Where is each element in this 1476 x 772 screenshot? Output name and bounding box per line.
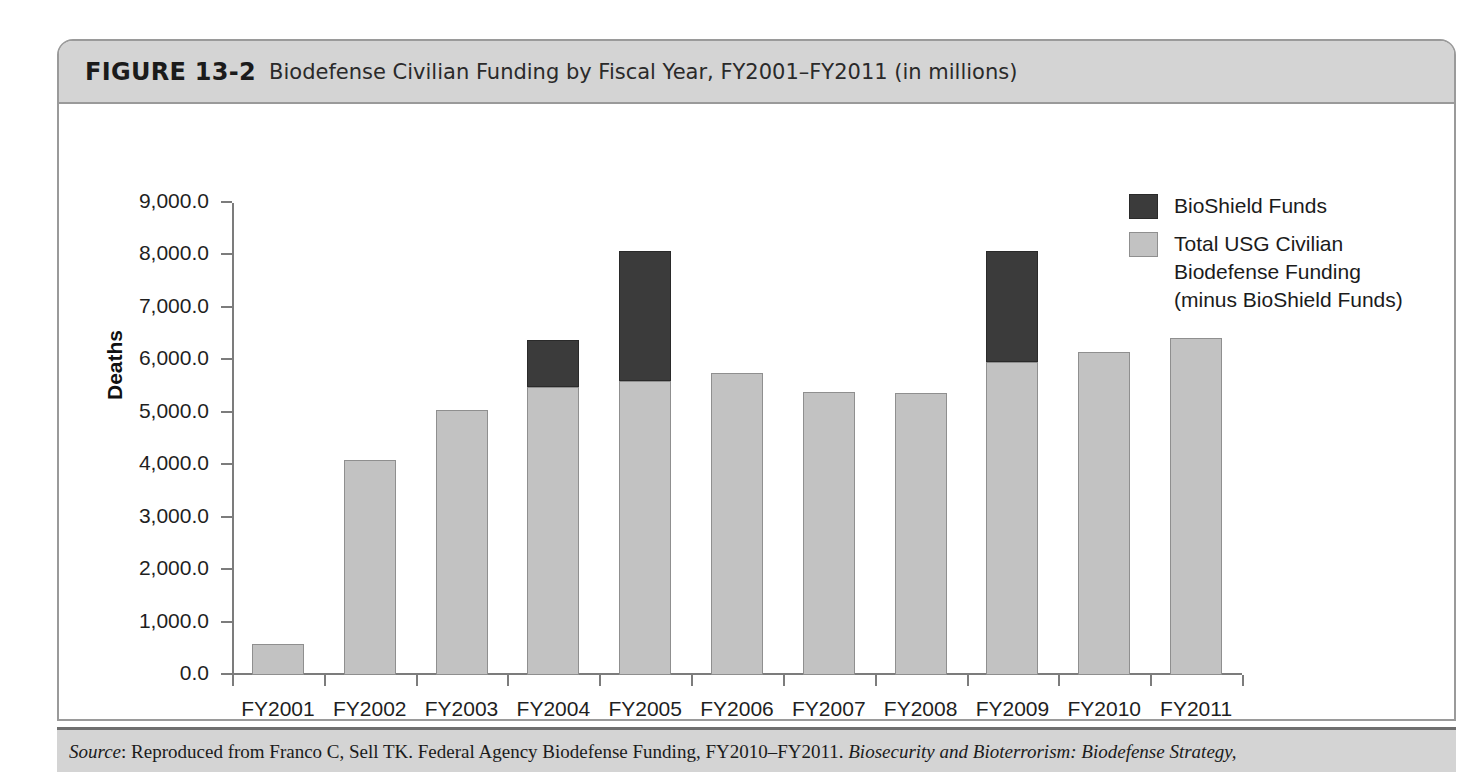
chart-area: Deaths 0.01,000.02,000.03,000.04,000.05,… bbox=[59, 104, 1454, 721]
x-axis-tick bbox=[1058, 675, 1060, 686]
bar-FY2008[interactable]: FY2008 bbox=[895, 393, 947, 675]
y-axis-tick-label: 1,000.0 bbox=[139, 609, 209, 633]
y-axis-tick-label: 4,000.0 bbox=[139, 451, 209, 475]
y-axis-tick: 8,000.0 bbox=[221, 253, 232, 255]
bar-segment-bioshield bbox=[619, 251, 671, 381]
x-axis-tick bbox=[416, 675, 418, 686]
bar-FY2010[interactable]: FY2010 bbox=[1078, 352, 1130, 675]
x-axis-tick bbox=[599, 675, 601, 686]
y-axis-tick-label: 0.0 bbox=[180, 661, 209, 685]
source-prefix: Source bbox=[69, 741, 121, 762]
legend-label-line-1: Total USG Civilian bbox=[1174, 230, 1403, 258]
source-colon: : bbox=[121, 741, 131, 762]
bar-FY2011[interactable]: FY2011 bbox=[1170, 338, 1222, 675]
legend-swatch-icon-bioshield bbox=[1129, 194, 1158, 219]
bar-segment-total-usg bbox=[986, 362, 1038, 675]
x-axis-label-FY2009: FY2009 bbox=[976, 697, 1050, 721]
y-axis-tick-label: 7,000.0 bbox=[139, 294, 209, 318]
plot-region: 0.01,000.02,000.03,000.04,000.05,000.06,… bbox=[232, 203, 1242, 675]
y-axis-tick: 9,000.0 bbox=[221, 201, 232, 203]
x-axis-tick bbox=[232, 675, 234, 686]
bar-segment-total-usg bbox=[1170, 338, 1222, 675]
x-axis-label-FY2008: FY2008 bbox=[884, 697, 958, 721]
figure-page: FIGURE 13-2 Biodefense Civilian Funding … bbox=[0, 0, 1476, 772]
x-axis-label-FY2004: FY2004 bbox=[517, 697, 591, 721]
y-axis-tick: 6,000.0 bbox=[221, 358, 232, 360]
y-axis-tick-label: 6,000.0 bbox=[139, 346, 209, 370]
chart-legend: BioShield Funds Total USG Civilian Biode… bbox=[1129, 192, 1429, 324]
y-axis-tick-label: 3,000.0 bbox=[139, 504, 209, 528]
legend-label-bioshield: BioShield Funds bbox=[1174, 192, 1327, 220]
bar-segment-total-usg bbox=[527, 387, 579, 675]
legend-swatch-icon-total-usg bbox=[1129, 232, 1158, 257]
x-axis-label-FY2003: FY2003 bbox=[425, 697, 499, 721]
bar-segment-total-usg bbox=[436, 410, 488, 675]
x-axis-tick bbox=[967, 675, 969, 686]
y-axis-tick-label: 9,000.0 bbox=[139, 189, 209, 213]
figure-container: FIGURE 13-2 Biodefense Civilian Funding … bbox=[57, 39, 1456, 721]
y-axis-tick: 5,000.0 bbox=[221, 411, 232, 413]
figure-header: FIGURE 13-2 Biodefense Civilian Funding … bbox=[59, 41, 1454, 104]
y-axis-tick: 4,000.0 bbox=[221, 463, 232, 465]
source-journal: Biosecurity and Bioterrorism: Biodefense… bbox=[848, 741, 1236, 762]
source-text: Source: Reproduced from Franco C, Sell T… bbox=[57, 730, 1456, 763]
figure-number-label: FIGURE 13-2 bbox=[85, 58, 256, 86]
x-axis-label-FY2006: FY2006 bbox=[700, 697, 774, 721]
x-axis-label-FY2010: FY2010 bbox=[1067, 697, 1141, 721]
legend-label-total-usg: Total USG Civilian Biodefense Funding (m… bbox=[1174, 230, 1403, 314]
bar-FY2007[interactable]: FY2007 bbox=[803, 392, 855, 675]
x-axis-tick bbox=[324, 675, 326, 686]
legend-item-bioshield: BioShield Funds bbox=[1129, 192, 1429, 220]
bar-segment-total-usg bbox=[711, 373, 763, 675]
y-axis-tick: 1,000.0 bbox=[221, 621, 232, 623]
bar-segment-total-usg bbox=[619, 381, 671, 675]
bar-segment-bioshield bbox=[527, 340, 579, 387]
x-axis-label-FY2001: FY2001 bbox=[241, 697, 315, 721]
x-axis-tick bbox=[507, 675, 509, 686]
legend-label-line-3: (minus BioShield Funds) bbox=[1174, 286, 1403, 314]
y-axis-tick: 0.0 bbox=[221, 673, 232, 675]
x-axis-tick bbox=[875, 675, 877, 686]
y-axis-tick-label: 5,000.0 bbox=[139, 399, 209, 423]
bar-segment-total-usg bbox=[1078, 352, 1130, 675]
bar-segment-bioshield bbox=[986, 251, 1038, 363]
x-axis-label-FY2005: FY2005 bbox=[608, 697, 682, 721]
source-body: Reproduced from Franco C, Sell TK. Feder… bbox=[131, 741, 848, 762]
legend-item-total-usg: Total USG Civilian Biodefense Funding (m… bbox=[1129, 230, 1429, 314]
bar-segment-total-usg bbox=[803, 392, 855, 675]
y-axis-tick: 2,000.0 bbox=[221, 568, 232, 570]
x-axis-label-FY2002: FY2002 bbox=[333, 697, 407, 721]
y-axis-title: Deaths bbox=[103, 330, 127, 400]
y-axis-tick: 3,000.0 bbox=[221, 516, 232, 518]
y-axis-tick-label: 8,000.0 bbox=[139, 241, 209, 265]
x-axis-tick bbox=[1242, 675, 1244, 686]
bar-FY2002[interactable]: FY2002 bbox=[344, 460, 396, 675]
bar-segment-total-usg bbox=[344, 460, 396, 675]
bar-segment-total-usg bbox=[895, 393, 947, 675]
x-axis-label-FY2011: FY2011 bbox=[1160, 697, 1232, 721]
x-axis-tick bbox=[783, 675, 785, 686]
y-axis-line bbox=[232, 203, 234, 675]
bar-FY2009[interactable]: FY2009 bbox=[986, 251, 1038, 675]
bar-FY2006[interactable]: FY2006 bbox=[711, 373, 763, 675]
bar-FY2005[interactable]: FY2005 bbox=[619, 251, 671, 675]
x-axis-label-FY2007: FY2007 bbox=[792, 697, 866, 721]
x-axis-tick bbox=[691, 675, 693, 686]
x-axis-tick bbox=[1150, 675, 1152, 686]
bar-segment-total-usg bbox=[252, 644, 304, 675]
source-bar: Source: Reproduced from Franco C, Sell T… bbox=[57, 727, 1456, 772]
y-axis-tick: 7,000.0 bbox=[221, 306, 232, 308]
legend-label-line-2: Biodefense Funding bbox=[1174, 258, 1403, 286]
bar-FY2003[interactable]: FY2003 bbox=[436, 410, 488, 675]
y-axis-tick-label: 2,000.0 bbox=[139, 556, 209, 580]
bar-FY2001[interactable]: FY2001 bbox=[252, 644, 304, 675]
bar-FY2004[interactable]: FY2004 bbox=[527, 340, 579, 675]
figure-caption: Biodefense Civilian Funding by Fiscal Ye… bbox=[269, 60, 1017, 84]
